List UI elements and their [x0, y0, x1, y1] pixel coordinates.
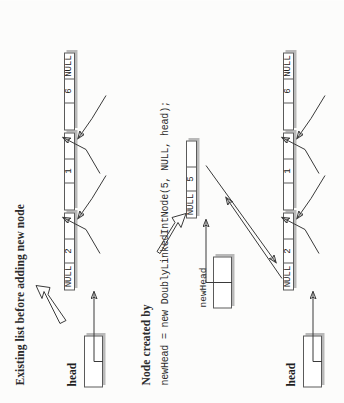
node-prev-value: NULL — [284, 265, 293, 287]
newhead-label: newHead — [198, 267, 209, 307]
node-data-value: 1 — [284, 168, 293, 173]
newnode-next-wire — [206, 165, 276, 262]
node-prev-cell: NULL — [187, 191, 196, 217]
node-data-cell: 1 — [65, 159, 74, 183]
node-next-cell — [284, 133, 293, 159]
prev-pointer-wire — [78, 95, 106, 138]
node-next-cell — [65, 213, 74, 239]
node-data-value: 6 — [65, 88, 74, 93]
node-data-cell: 6 — [65, 79, 74, 103]
list-node: NULL 2 — [64, 212, 75, 290]
node-next-cell: NULL — [284, 53, 293, 79]
node-data-value: 2 — [65, 248, 74, 253]
node-data-value: 2 — [284, 248, 293, 253]
new-list-node: NULL 5 — [186, 140, 197, 218]
prev-pointer-wire-to-newnode — [226, 197, 282, 278]
node-prev-cell: NULL — [65, 263, 74, 289]
prev-pointer-wire — [78, 175, 106, 218]
list-node: 1 — [64, 132, 75, 210]
head-label-bottom: head — [285, 362, 297, 386]
node-prev-cell — [65, 103, 74, 129]
prev-pointer-wire — [297, 175, 325, 218]
node-next-cell — [284, 213, 293, 239]
node-next-value: NULL — [284, 55, 293, 77]
node-data-cell: 2 — [65, 239, 74, 263]
head-label-top: head — [66, 362, 78, 386]
caption-pointer-arrow-top — [36, 285, 66, 323]
caption-existing-list: Existing list before adding new node — [14, 204, 26, 385]
node-data-value: 6 — [284, 88, 293, 93]
list-node: 1 — [283, 132, 294, 210]
list-node: 6 NULL — [283, 52, 294, 130]
newhead-pointer-box — [213, 256, 232, 308]
node-data-cell: 2 — [284, 239, 293, 263]
scanned-figure-page: Existing list before adding new node hea… — [0, 0, 344, 403]
node-prev-cell — [284, 103, 293, 129]
caption-node-created-by: Node created by — [140, 304, 152, 385]
node-next-cell: NULL — [65, 53, 74, 79]
list-node: 6 NULL — [64, 52, 75, 130]
node-data-cell: 1 — [284, 159, 293, 183]
node-prev-value: NULL — [65, 265, 74, 287]
head-pointer-box-top — [84, 335, 103, 387]
node-data-value: 1 — [65, 168, 74, 173]
node-next-cell — [187, 141, 196, 167]
node-next-value: NULL — [65, 55, 74, 77]
list-node: NULL 2 — [283, 212, 294, 290]
node-data-cell: 6 — [284, 79, 293, 103]
node-data-value: 5 — [187, 176, 196, 181]
code-line-new-node: newHead = new DoublyLinkedIntNode(5, NUL… — [160, 101, 171, 385]
prev-pointer-wire — [297, 95, 325, 138]
node-prev-cell: NULL — [284, 263, 293, 289]
node-prev-cell — [65, 183, 74, 209]
node-next-cell — [65, 133, 74, 159]
node-prev-cell — [284, 183, 293, 209]
node-data-cell: 5 — [187, 167, 196, 191]
node-prev-value: NULL — [187, 193, 196, 215]
head-pointer-box-bottom — [303, 335, 322, 387]
